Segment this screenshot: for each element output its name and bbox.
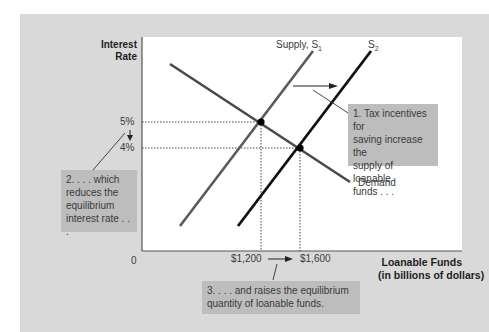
callout-2-line: interest rate . . .	[66, 212, 132, 238]
y-tick-5: 5%	[120, 116, 134, 128]
callout-2-line: reduces the	[66, 186, 132, 199]
callout-3-line: quantity of loanable funds.	[207, 297, 355, 310]
supply1-label-text: Supply, S	[276, 39, 318, 50]
x-axis-title-line1: Loanable Funds	[378, 256, 462, 269]
callout-2: 2. . . . which reduces the equilibrium i…	[61, 170, 137, 232]
shift-arrow-icon	[293, 83, 338, 89]
callout-3: 3. . . . and raises the equilibrium quan…	[202, 281, 360, 314]
callout3-leader	[273, 264, 277, 280]
right-arrow-icon	[268, 256, 293, 262]
x-tick-1600: $1,600	[300, 253, 331, 265]
x-axis-title: Loanable Funds (in billions of dollars)	[378, 256, 462, 282]
guide-lines	[142, 122, 300, 251]
y-axis-title: Interest Rate	[94, 39, 137, 63]
callout-2-line: equilibrium	[66, 199, 132, 212]
supply1-label-sub: 1	[318, 45, 322, 52]
x-tick-1200: $1,200	[231, 253, 262, 265]
down-arrow-icon	[127, 130, 133, 141]
callout-1-line: supply of loanable	[353, 159, 433, 185]
supply1-label: Supply, S1	[276, 39, 322, 55]
callout-2-line: 2. . . . which	[66, 173, 132, 186]
callout1-leader	[313, 90, 348, 113]
equilibrium-point-1	[257, 118, 264, 125]
y-tick-4: 4%	[120, 142, 134, 154]
origin-label: 0	[131, 255, 137, 267]
callout-1-line: 1. Tax incentives for	[353, 107, 433, 133]
supply2-label-text: S	[368, 39, 375, 50]
callout-1: 1. Tax incentives for saving increase th…	[348, 104, 438, 166]
callout-1-line: saving increase the	[353, 133, 433, 159]
callout-1-line: funds . . .	[353, 185, 433, 198]
supply2-label: S2	[368, 39, 379, 55]
y-axis-title-line2: Rate	[94, 51, 137, 63]
x-axis-title-line2: (in billions of dollars)	[378, 269, 462, 282]
callout-3-line: 3. . . . and raises the equilibrium	[207, 284, 355, 297]
supply2-label-sub: 2	[375, 45, 379, 52]
equilibrium-point-2	[296, 144, 303, 151]
supply1-curve	[180, 51, 313, 226]
y-axis-title-line1: Interest	[94, 39, 137, 51]
